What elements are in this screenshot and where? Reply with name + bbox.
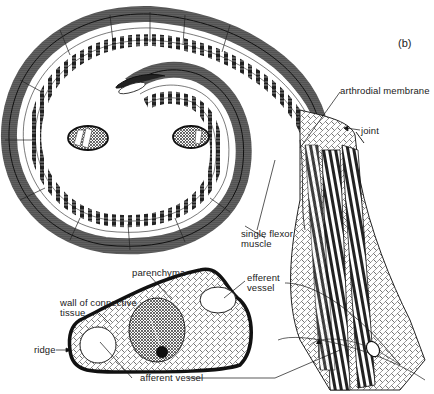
diagram-artwork xyxy=(0,0,434,394)
label-joint: joint xyxy=(361,126,379,136)
flexor-appendage xyxy=(278,110,425,390)
label-wall-connective-tissue-2: tissue xyxy=(60,308,85,318)
label-afferent-vessel: afferent vessel xyxy=(140,373,203,383)
label-efferent-vessel-2: vessel xyxy=(247,283,275,293)
cross-sections xyxy=(68,126,209,150)
label-ridge: ridge xyxy=(34,345,56,355)
label-single-flexor-muscle-2: muscle xyxy=(241,239,272,249)
panel-label: (b) xyxy=(398,37,411,49)
label-arthrodial-membrane: arthrodial membrane xyxy=(340,86,430,96)
label-parenchyma: parenchyma xyxy=(132,268,185,278)
coiled-appendage xyxy=(5,12,318,250)
filament-cross-section xyxy=(69,269,251,372)
gill-filament-diagram: (b) arthrodial membrane joint single fle… xyxy=(0,0,434,394)
